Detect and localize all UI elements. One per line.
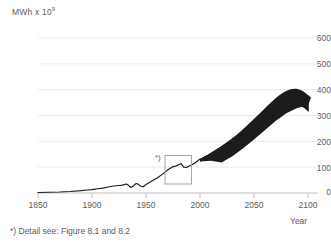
x-tick-label-2000: 2000 — [180, 200, 220, 210]
x-tick-label-2100: 2100 — [288, 200, 328, 210]
x-tick-label-1850: 1850 — [18, 200, 58, 210]
x-tick-label-1900: 1900 — [72, 200, 112, 210]
x-tick-label-2050: 2050 — [234, 200, 274, 210]
inset-detail-marker: *) — [155, 153, 161, 162]
x-tick-label-1950: 1950 — [126, 200, 166, 210]
energy-projection-chart: MWh x 109 600 500 400 300 200 100 0 — [0, 0, 331, 246]
historical-curve — [38, 159, 200, 193]
x-axis-title: Year — [290, 216, 307, 226]
chart-footnote: *) Detail see: Figure 8.1 and 8.2 — [10, 226, 130, 236]
scenario-wedge-body — [200, 95, 311, 163]
x-axis-ticks — [38, 193, 308, 198]
